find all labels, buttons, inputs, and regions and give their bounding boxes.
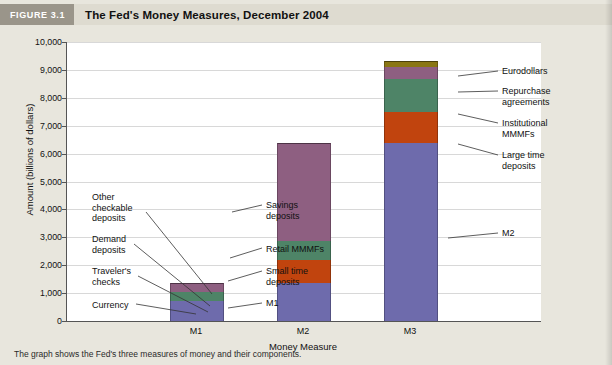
- bar-segment-currency: [170, 301, 224, 321]
- annotation-m2: M2: [502, 228, 515, 239]
- annotation-line: deposits: [502, 161, 545, 172]
- y-axis-tick-mark: [62, 237, 66, 238]
- gridline: [67, 98, 541, 99]
- annotation-retail-mmmfs: Retail MMMFs: [266, 244, 324, 255]
- gridline: [67, 126, 541, 127]
- y-axis-tick-label: 4,000: [16, 204, 62, 214]
- x-axis-label-m1: M1: [166, 326, 226, 336]
- bar-m1: [170, 283, 224, 321]
- gridline: [67, 42, 541, 43]
- annotation-line: deposits: [266, 211, 300, 222]
- annotation-other-checkable-deposits: Othercheckabledeposits: [92, 192, 133, 224]
- page-edge-shadow: [605, 0, 612, 365]
- bar-segment-other-checkable-deposits: [170, 283, 224, 292]
- y-axis-tick-mark: [62, 154, 66, 155]
- annotation-line: Repurchase: [502, 86, 551, 97]
- annotation-line: deposits: [266, 277, 308, 288]
- annotation-line: M2: [502, 228, 515, 239]
- annotation-large-time-deposits: Large timedeposits: [502, 150, 545, 171]
- x-axis-label-m2: M2: [273, 326, 333, 336]
- annotation-line: MMMFs: [502, 129, 548, 140]
- y-axis: Amount (billions of dollars) 01,0002,000…: [10, 26, 62, 344]
- y-axis-tick-label: 8,000: [16, 93, 62, 103]
- bar-segment-m2: [384, 143, 438, 321]
- annotation-line: deposits: [92, 213, 133, 224]
- annotation-small-time-deposits: Small timedeposits: [266, 266, 308, 287]
- y-axis-tick-mark: [62, 182, 66, 183]
- y-axis-tick-label: 1,000: [16, 288, 62, 298]
- annotation-line: Institutional: [502, 118, 548, 129]
- annotation-line: Currency: [92, 300, 129, 311]
- y-axis-tick-label: 5,000: [16, 177, 62, 187]
- x-axis-label-m3: M3: [380, 326, 440, 336]
- y-axis-tick-label: 2,000: [16, 260, 62, 270]
- chart-area: Amount (billions of dollars) 01,0002,000…: [0, 26, 612, 344]
- y-axis-tick-mark: [62, 126, 66, 127]
- annotation-line: checks: [92, 277, 131, 288]
- annotation-line: M1: [266, 298, 279, 309]
- y-axis-tick-mark: [62, 209, 66, 210]
- figure-number-tag: FIGURE 3.1: [0, 4, 74, 25]
- bar-m3: [384, 61, 438, 321]
- annotation-line: Eurodollars: [502, 66, 548, 77]
- annotation-line: agreements: [502, 97, 551, 108]
- y-axis-tick-label: 10,000: [16, 37, 62, 47]
- annotation-line: Demand: [92, 234, 126, 245]
- bar-segment-large-time-deposits: [384, 112, 438, 142]
- annotation-m1: M1: [266, 298, 279, 309]
- annotation-line: Savings: [266, 200, 300, 211]
- y-axis-tick-label: 9,000: [16, 65, 62, 75]
- annotation-line: Large time: [502, 150, 545, 161]
- y-axis-tick-mark: [62, 98, 66, 99]
- annotation-line: Retail MMMFs: [266, 244, 324, 255]
- gridline: [67, 70, 541, 71]
- annotation-institutional-mmmfs: InstitutionalMMMFs: [502, 118, 548, 139]
- annotation-line: deposits: [92, 245, 126, 256]
- y-axis-tick-mark: [62, 42, 66, 43]
- figure-header: FIGURE 3.1 The Fed's Money Measures, Dec…: [0, 4, 612, 25]
- annotation-currency: Currency: [92, 300, 129, 311]
- bar-segment-institutional-mmmfs: [384, 79, 438, 112]
- y-axis-tick-mark: [62, 293, 66, 294]
- annotation-line: Small time: [266, 266, 308, 277]
- annotation-line: Traveler's: [92, 266, 131, 277]
- figure-title: The Fed's Money Measures, December 2004: [85, 9, 329, 21]
- bar-m2: [277, 143, 331, 321]
- bar-segment-m1: [277, 283, 331, 321]
- figure-caption: The graph shows the Fed's three measures…: [0, 349, 612, 365]
- y-axis-tick-label: 3,000: [16, 232, 62, 242]
- y-axis-tick-mark: [62, 70, 66, 71]
- annotation-travelers-checks: Traveler'schecks: [92, 266, 131, 287]
- annotation-repurchase-agreements: Repurchaseagreements: [502, 86, 551, 107]
- annotation-line: checkable: [92, 203, 133, 214]
- y-axis-tick-label: 7,000: [16, 121, 62, 131]
- bar-segment-repurchase-agreements: [384, 67, 438, 79]
- y-axis-tick-label: 6,000: [16, 149, 62, 159]
- annotation-savings-deposits: Savingsdeposits: [266, 200, 300, 221]
- y-axis-tick-mark: [62, 265, 66, 266]
- annotation-line: Other: [92, 192, 133, 203]
- y-axis-tick-label: 0: [16, 316, 62, 326]
- annotation-demand-deposits: Demanddeposits: [92, 234, 126, 255]
- bar-segment-savings-deposits: [277, 143, 331, 241]
- annotation-eurodollars: Eurodollars: [502, 66, 548, 77]
- bar-segment-eurodollars: [384, 61, 438, 67]
- y-axis-tick-mark: [62, 321, 66, 322]
- bar-segment-demand-deposits: [170, 292, 224, 301]
